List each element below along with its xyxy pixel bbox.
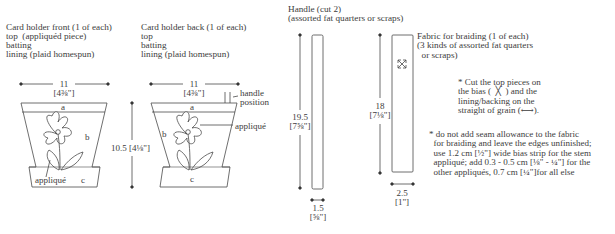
back-card-holder-shape: [151, 103, 237, 187]
front-section-a: a: [61, 103, 65, 112]
front-height-label: 10.5 [4⅛"]: [111, 144, 150, 153]
front-section-c: c: [81, 176, 85, 185]
front-section-b: b: [85, 133, 90, 142]
back-section-b: b: [162, 130, 167, 139]
back-section-a: a: [190, 103, 194, 112]
braiding-length-in: [7⅛"]: [364, 111, 396, 120]
bias-cross-icon: [398, 60, 406, 68]
back-flower-applique: [174, 112, 233, 170]
bias-grain-note: * Cut the top pieces on the bias ( ╳ ) a…: [458, 78, 541, 116]
back-applique-label: appliqué: [235, 122, 266, 131]
handle-length-in: [7⅝"]: [284, 122, 316, 131]
front-width-in: [4⅜"]: [49, 89, 79, 98]
handle-position-marks: [225, 92, 238, 103]
back-width-in: [4⅜"]: [179, 89, 209, 98]
handle-width-in: [⅝"]: [303, 213, 333, 222]
back-handle-position-label: handle position: [240, 89, 269, 107]
back-section-c: c: [190, 175, 194, 184]
braiding-width-in: [1"]: [387, 198, 417, 207]
seam-allowance-note: * do not add seam allowance to the fabri…: [429, 130, 591, 177]
front-applique-label: appliqué: [35, 176, 66, 185]
